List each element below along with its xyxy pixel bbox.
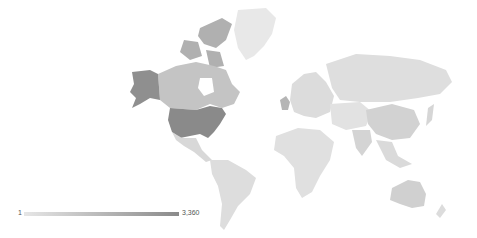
region-new-zealand[interactable] bbox=[436, 204, 446, 218]
region-central-asia[interactable] bbox=[330, 102, 372, 130]
region-japan[interactable] bbox=[426, 104, 434, 126]
world-choropleth-map bbox=[0, 0, 477, 238]
region-australia[interactable] bbox=[390, 180, 426, 208]
region-russia[interactable] bbox=[326, 54, 452, 102]
region-southeast-asia[interactable] bbox=[376, 140, 412, 168]
region-europe[interactable] bbox=[290, 72, 334, 118]
region-united-kingdom[interactable] bbox=[280, 96, 290, 110]
legend-min-label: 1 bbox=[18, 209, 22, 216]
region-alaska[interactable] bbox=[130, 70, 160, 108]
legend-max-label: 3,360 bbox=[182, 209, 200, 216]
region-canadian-arctic[interactable] bbox=[180, 18, 232, 68]
color-scale-legend: 1 3,360 bbox=[0, 208, 240, 224]
region-united-states[interactable] bbox=[168, 106, 226, 138]
legend-gradient-bar bbox=[24, 212, 179, 216]
region-india[interactable] bbox=[352, 130, 372, 156]
region-greenland[interactable] bbox=[234, 8, 276, 60]
region-africa[interactable] bbox=[274, 128, 334, 198]
region-china[interactable] bbox=[366, 104, 420, 140]
